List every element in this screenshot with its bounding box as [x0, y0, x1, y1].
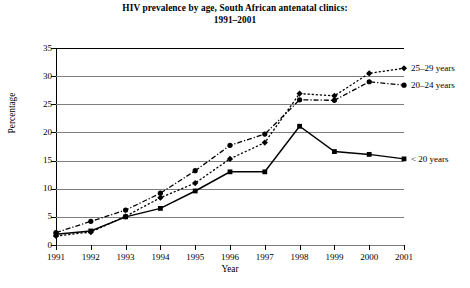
data-point-marker	[88, 219, 93, 224]
data-point-marker	[227, 143, 232, 148]
series-line-0	[56, 68, 404, 236]
data-point-marker	[228, 169, 233, 174]
chart-container: HIV prevalence by age, South African ant…	[0, 0, 470, 288]
legend-label-2: < 20 years	[411, 154, 449, 164]
data-point-marker	[402, 156, 407, 161]
legend-label-0: 25–29 years	[411, 63, 455, 73]
data-point-marker	[123, 208, 128, 213]
data-point-marker	[193, 189, 198, 194]
data-point-marker	[193, 168, 198, 173]
data-point-marker	[54, 232, 59, 237]
data-point-marker	[262, 169, 267, 174]
data-point-marker	[123, 214, 128, 219]
series-layer	[0, 0, 470, 288]
data-point-marker	[367, 152, 372, 157]
data-point-marker	[401, 83, 406, 88]
data-point-marker	[332, 149, 337, 154]
data-point-marker	[297, 124, 302, 129]
data-point-marker	[158, 191, 163, 196]
legend-label-1: 20–24 years	[411, 80, 455, 90]
data-point-marker	[297, 97, 302, 102]
data-point-marker	[158, 206, 163, 211]
data-point-marker	[366, 70, 372, 76]
data-point-marker	[262, 132, 267, 137]
series-line-2	[56, 126, 404, 234]
data-point-marker	[401, 65, 407, 71]
data-point-marker	[332, 98, 337, 103]
data-point-marker	[367, 79, 372, 84]
data-point-marker	[88, 229, 93, 234]
